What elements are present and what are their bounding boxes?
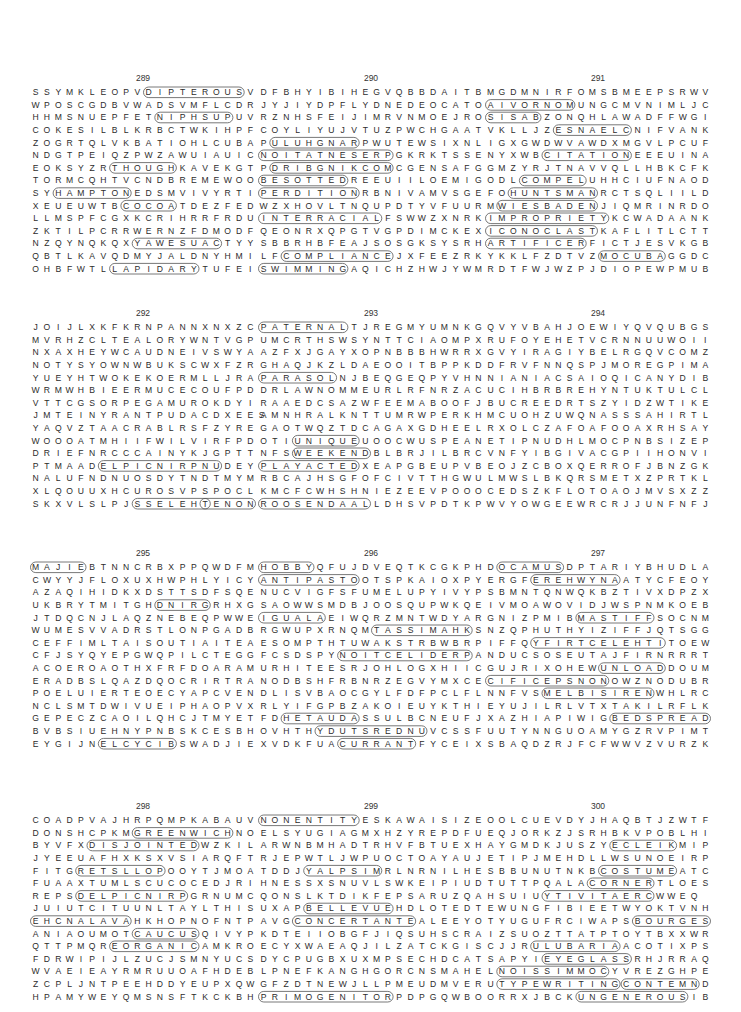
grid-letter: U (382, 409, 393, 422)
grid-letter: I (41, 864, 52, 877)
grid-letter: E (621, 637, 632, 650)
grid-letter: L (485, 965, 496, 978)
grid-letter: D (461, 902, 472, 915)
grid-letter: A (598, 953, 609, 966)
grid-letter: Z (519, 611, 530, 624)
grid-letter: N (541, 359, 552, 372)
grid-letter: M (292, 262, 303, 275)
grid-letter: O (281, 497, 292, 510)
grid-letter: K (541, 827, 552, 840)
grid-letter: Q (109, 237, 120, 250)
grid-letter: C (211, 827, 222, 840)
grid-letter: V (360, 877, 371, 890)
grid-letter: A (143, 237, 154, 250)
grid-letter: G (450, 940, 461, 953)
grid-letter: R (348, 662, 359, 675)
grid-letter: I (154, 737, 165, 750)
grid-letter: S (326, 472, 337, 485)
grid-letter: S (75, 624, 86, 637)
grid-letter: S (75, 359, 86, 372)
grid-letter: O (371, 599, 382, 612)
grid-letter: E (394, 99, 405, 112)
grid-letter: E (109, 384, 120, 397)
grid-letter: G (132, 827, 143, 840)
grid-letter: U (326, 124, 337, 137)
grid-letter: R (269, 384, 280, 397)
grid-letter: H (132, 915, 143, 928)
grid-letter: K (292, 737, 303, 750)
grid-letter: T (199, 864, 210, 877)
grid-letter: N (326, 136, 337, 149)
grid-letter: T (233, 187, 244, 200)
grid-letter: R (427, 890, 438, 903)
grid-letter: E (177, 497, 188, 510)
grid-letter: E (53, 687, 64, 700)
grid-letter: Q (86, 237, 97, 250)
grid-letter: Y (666, 371, 677, 384)
grid-letter: V (360, 902, 371, 915)
grid-letter: W (154, 237, 165, 250)
grid-letter: P (394, 990, 405, 1003)
grid-letter: R (64, 599, 75, 612)
grid-letter: A (371, 637, 382, 650)
grid-letter: K (632, 700, 643, 713)
grid-letter: E (564, 953, 575, 966)
grid-letter: L (360, 497, 371, 510)
grid-letter: T (677, 472, 688, 485)
grid-letter: N (337, 624, 348, 637)
grid-letter: N (688, 978, 699, 991)
grid-letter: U (75, 852, 86, 865)
grid-letter: R (519, 940, 530, 953)
grid-letter: W (621, 737, 632, 750)
grid-letter: R (609, 460, 620, 473)
grid-letter: P (233, 124, 244, 137)
grid-letter: E (314, 902, 325, 915)
grid-letter: O (64, 485, 75, 498)
grid-letter: F (86, 212, 97, 225)
grid-letter: A (348, 497, 359, 510)
grid-letter: B (314, 687, 325, 700)
grid-letter: M (405, 321, 416, 334)
grid-letter: X (450, 674, 461, 687)
grid-letter: H (564, 434, 575, 447)
grid-letter: D (688, 199, 699, 212)
grid-letter: E (258, 940, 269, 953)
grid-letter: Y (348, 814, 359, 827)
grid-letter: C (120, 346, 131, 359)
grid-letter: D (360, 447, 371, 460)
grid-letter: B (541, 199, 552, 212)
grid-letter: E (41, 712, 52, 725)
grid-letter: W (450, 990, 461, 1003)
grid-letter: F (258, 712, 269, 725)
grid-letter: I (564, 712, 575, 725)
grid-letter: F (199, 422, 210, 435)
grid-letter: Q (575, 409, 586, 422)
grid-letter: K (326, 447, 337, 460)
grid-letter: M (530, 561, 541, 574)
grid-letter: K (427, 149, 438, 162)
grid-letter: U (439, 890, 450, 903)
grid-letter: F (348, 586, 359, 599)
grid-letter: E (269, 187, 280, 200)
grid-letter: U (199, 978, 210, 991)
grid-letter: T (86, 422, 97, 435)
puzzle-291: 291MGDMNIRFOMSBMEEPSRWVAIVORNOMUNGCMVNIM… (485, 72, 711, 275)
grid-letter: O (485, 814, 496, 827)
grid-letter: C (450, 953, 461, 966)
grid-letter: W (530, 136, 541, 149)
grid-letter: I (575, 915, 586, 928)
grid-letter: V (53, 839, 64, 852)
grid-letter: E (245, 737, 256, 750)
grid-letter: E (461, 422, 472, 435)
grid-letter: E (439, 250, 450, 263)
grid-letter: O (199, 915, 210, 928)
grid-letter: Q (64, 586, 75, 599)
grid-letter: P (154, 409, 165, 422)
grid-letter: O (598, 877, 609, 890)
grid-letter: U (143, 162, 154, 175)
grid-letter: A (382, 460, 393, 473)
grid-letter: S (621, 599, 632, 612)
grid-letter: X (143, 574, 154, 587)
grid-letter: W (233, 611, 244, 624)
grid-letter: P (86, 225, 97, 238)
